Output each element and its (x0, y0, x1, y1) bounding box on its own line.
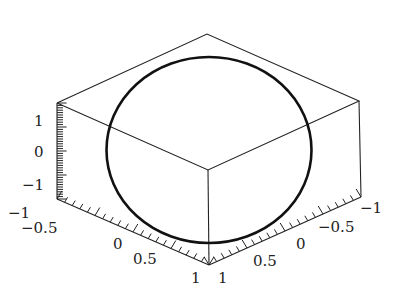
tick-mark (133, 224, 138, 232)
tick-mark (236, 246, 239, 251)
tick-mark (259, 236, 262, 241)
tick-mark (186, 250, 189, 255)
tick-mark (267, 233, 270, 238)
plot-canvas: 10−1 −1−0.500.51 10.50−0.5−1 (0, 0, 411, 302)
tick-mark (194, 253, 197, 258)
tick-mark (252, 240, 255, 245)
tick-mark (242, 240, 247, 248)
tick-mark (148, 234, 151, 239)
tick-mark (229, 250, 232, 255)
tick-mark (125, 224, 128, 229)
tick-mark (156, 237, 159, 242)
tick-mark (72, 201, 75, 206)
vertical-axis-labels: 10−1 (22, 112, 44, 194)
tick-mark (103, 214, 106, 219)
tick-mark (221, 253, 224, 258)
tick-mark (214, 257, 217, 262)
vertical-axis-ticks (57, 103, 67, 199)
tick-mark (335, 202, 338, 207)
tick-mark (118, 220, 121, 225)
tick-mark (179, 247, 182, 252)
tick-mark (312, 212, 315, 217)
tick-mark (171, 241, 176, 249)
tick-mark (163, 240, 166, 245)
front_left-tick-label: 1 (191, 269, 201, 287)
vertical-tick-label: 1 (34, 112, 44, 130)
front_right-tick-label: 0 (296, 235, 306, 253)
tick-mark (297, 219, 300, 224)
bounding-box (57, 34, 361, 265)
tick-mark (110, 217, 113, 222)
tick-mark (80, 204, 83, 209)
tick-mark (95, 208, 100, 216)
front-right-axis-labels: 10.50−0.5−1 (218, 199, 382, 287)
front_right-tick-label: −1 (360, 199, 382, 217)
tick-mark (290, 223, 293, 228)
tick-mark (141, 230, 144, 235)
front_left-tick-label: 0 (113, 235, 123, 253)
front_left-tick-label: 0.5 (133, 250, 157, 268)
front_right-tick-label: −0.5 (318, 218, 354, 236)
box-top-face (57, 34, 359, 170)
tick-mark (274, 229, 277, 234)
tick-mark (318, 206, 323, 214)
box-edge-front (208, 170, 209, 265)
tick-mark (65, 197, 68, 202)
tick-mark (343, 199, 346, 204)
tick-mark (305, 216, 308, 221)
tick-mark (350, 195, 353, 200)
tick-mark (328, 206, 331, 211)
vertical-tick-label: 0 (34, 143, 44, 161)
front_left-tick-label: −0.5 (21, 219, 57, 237)
box-edge-right (359, 101, 361, 197)
tick-mark (87, 207, 90, 212)
tick-mark (356, 189, 361, 197)
front_right-tick-label: 0.5 (253, 252, 277, 270)
tick-mark (280, 223, 285, 231)
vertical-tick-label: −1 (22, 176, 44, 194)
front_right-tick-label: 1 (218, 269, 228, 287)
